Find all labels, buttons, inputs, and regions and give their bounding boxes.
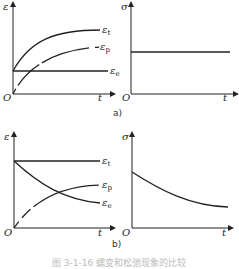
- y-axis-label: σ: [122, 131, 130, 142]
- y-axis-label: σ: [121, 1, 129, 12]
- y-axis-label: ε: [4, 131, 9, 142]
- label-epsilon-p: εp: [102, 179, 112, 192]
- label-epsilon-t: εt: [102, 155, 110, 168]
- panel-b-label: b): [112, 239, 121, 249]
- figure-caption: 图 3-1-16 蠕变和松弛现象的比较: [52, 256, 186, 269]
- x-axis-label: t: [222, 227, 227, 238]
- curve-epsilon-t: [13, 30, 100, 71]
- y-axis-label: ε: [3, 1, 8, 12]
- label-epsilon-p: εp: [100, 41, 110, 54]
- origin-label: O: [3, 92, 11, 103]
- curve-epsilon-e: [14, 161, 100, 203]
- x-axis-label: t: [98, 227, 103, 238]
- panel-a-left: ε O t εt εp εe: [3, 1, 120, 103]
- label-epsilon-t: εt: [102, 24, 110, 37]
- panel-a-right: σ O t: [121, 1, 236, 103]
- origin-label: O: [122, 92, 130, 103]
- panel-b-right: σ O t: [122, 131, 231, 238]
- label-epsilon-e: εe: [102, 197, 112, 210]
- origin-label: O: [4, 227, 12, 238]
- panel-b-left: ε O t εt εp εe: [4, 131, 113, 238]
- panel-a-label: a): [113, 108, 122, 118]
- label-epsilon-e: εe: [110, 65, 120, 78]
- origin-label: O: [122, 227, 130, 238]
- curve-sigma-decay: [132, 172, 228, 207]
